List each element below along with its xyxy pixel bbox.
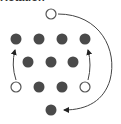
filled-circle-r1c4	[80, 34, 91, 45]
filled-circle-r1c2	[34, 34, 45, 45]
arrow-left-up	[13, 50, 16, 80]
filled-circle-r3c2	[34, 82, 45, 93]
hollow-circle-top	[46, 9, 56, 19]
hollow-circle-r3c4	[80, 82, 90, 92]
filled-circle-r2c1	[23, 57, 34, 68]
filled-circle-r3c3	[57, 82, 68, 93]
filled-circle-r2c2	[46, 57, 57, 68]
hollow-circle-r3c1	[11, 82, 21, 92]
arrow-right-up	[88, 50, 90, 80]
nodes-layer	[11, 9, 91, 116]
filled-circle-r1c1	[11, 34, 22, 45]
circle-rotation-diagram	[0, 0, 121, 124]
filled-circle-r2c3	[68, 57, 79, 68]
filled-circle-r1c3	[57, 34, 68, 45]
filled-circle-bottom	[46, 105, 57, 116]
arrow-top-to-bottom-arc	[58, 14, 112, 110]
